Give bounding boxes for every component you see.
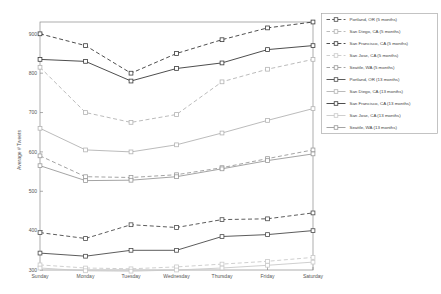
data-point-marker — [129, 79, 133, 83]
legend-swatch-marker — [334, 102, 338, 106]
data-point-marker — [84, 179, 88, 183]
legend-swatch-marker — [334, 18, 338, 22]
data-point-marker — [311, 260, 315, 264]
data-point-marker — [38, 32, 42, 36]
x-tick-label: Thursday — [212, 273, 233, 279]
legend-label: Portland, OR (5 months) — [350, 17, 398, 22]
data-point-marker — [311, 229, 315, 233]
legend: Portland, OR (5 months)San Diego, CA (5 … — [322, 14, 438, 134]
data-point-marker — [175, 268, 179, 272]
data-point-marker — [175, 226, 179, 230]
data-point-marker — [38, 65, 42, 69]
data-point-marker — [129, 248, 133, 252]
legend-label: San Diego, CA (5 months) — [350, 29, 402, 34]
data-point-marker — [38, 126, 42, 130]
y-tick-label: 300 — [29, 267, 38, 273]
data-point-marker — [311, 107, 315, 111]
data-point-marker — [266, 119, 270, 123]
data-point-marker — [38, 266, 42, 270]
data-point-marker — [84, 148, 88, 152]
legend-entry: Seattle, WA (5 months) — [327, 65, 396, 70]
data-point-marker — [220, 38, 224, 42]
legend-entry: Portland, OR (5 months) — [327, 17, 398, 22]
data-point-marker — [38, 231, 42, 235]
data-point-marker — [266, 26, 270, 30]
legend-entry: Portland, OR (13 months) — [327, 77, 401, 82]
y-tick-label: 500 — [29, 188, 38, 194]
data-point-marker — [220, 167, 224, 171]
data-point-marker — [220, 131, 224, 135]
legend-entry: Seattle, WA (13 months) — [327, 125, 398, 130]
legend-swatch-marker — [334, 30, 338, 34]
legend-label: San Diego, CA (13 months) — [350, 89, 404, 94]
chart-figure: 300400500600700800900SundayMondayTuesday… — [0, 0, 441, 294]
data-point-marker — [84, 111, 88, 115]
data-point-marker — [175, 175, 179, 179]
data-point-marker — [220, 235, 224, 239]
data-point-marker — [266, 159, 270, 163]
series-line — [40, 46, 313, 81]
data-point-marker — [266, 233, 270, 237]
y-tick-label: 800 — [29, 70, 38, 76]
data-point-marker — [311, 211, 315, 215]
data-point-marker — [311, 20, 315, 24]
data-point-marker — [220, 266, 224, 270]
data-point-marker — [38, 154, 42, 158]
data-point-marker — [175, 143, 179, 147]
legend-label: San Jose, CA (13 months) — [350, 113, 402, 118]
data-point-marker — [311, 57, 315, 61]
legend-entry: San Jose, CA (13 months) — [327, 113, 402, 118]
data-point-marker — [84, 175, 88, 179]
data-point-marker — [84, 59, 88, 63]
data-point-marker — [129, 223, 133, 227]
data-point-marker — [220, 262, 224, 266]
legend-label: Seattle, WA (13 months) — [350, 125, 398, 130]
data-point-marker — [266, 259, 270, 263]
data-point-marker — [38, 164, 42, 168]
data-point-marker — [266, 48, 270, 52]
legend-swatch-marker — [334, 114, 338, 118]
data-point-marker — [311, 152, 315, 156]
y-tick-label: 600 — [29, 149, 38, 155]
data-point-marker — [220, 80, 224, 84]
line-chart: 300400500600700800900SundayMondayTuesday… — [0, 0, 441, 294]
x-tick-label: Saturday — [303, 273, 324, 279]
y-tick-label: 700 — [29, 109, 38, 115]
data-point-marker — [175, 67, 179, 71]
data-point-marker — [175, 52, 179, 56]
legend-entry: San Jose, CA (5 months) — [327, 53, 399, 58]
data-point-marker — [175, 113, 179, 117]
data-point-marker — [311, 148, 315, 152]
data-point-marker — [38, 251, 42, 255]
data-point-marker — [84, 44, 88, 48]
legend-swatch-marker — [334, 90, 338, 94]
data-point-marker — [129, 178, 133, 182]
data-point-marker — [311, 44, 315, 48]
legend-swatch-marker — [334, 54, 338, 58]
data-point-marker — [38, 57, 42, 61]
x-tick-label: Wednesday — [163, 273, 190, 279]
legend-swatch-marker — [334, 42, 338, 46]
data-point-marker — [129, 150, 133, 154]
data-point-marker — [266, 263, 270, 267]
data-point-marker — [266, 67, 270, 71]
series-line — [40, 22, 313, 73]
data-point-marker — [84, 237, 88, 241]
series-lines — [38, 20, 315, 273]
y-tick-label: 400 — [29, 227, 38, 233]
data-point-marker — [175, 248, 179, 252]
legend-swatch-marker — [334, 126, 338, 130]
legend-label: San Jose, CA (5 months) — [350, 53, 399, 58]
legend-entry: San Diego, CA (5 months) — [327, 29, 402, 34]
x-tick-label: Friday — [261, 273, 275, 279]
y-axis-title: Average # Tweets — [16, 130, 22, 170]
legend-label: San Francisco, CA (5 months) — [350, 41, 409, 46]
legend-label: Seattle, WA (5 months) — [350, 65, 396, 70]
legend-swatch-marker — [334, 78, 338, 82]
data-point-marker — [311, 256, 315, 260]
x-tick-label: Sunday — [32, 273, 49, 279]
data-point-marker — [220, 61, 224, 65]
data-point-marker — [129, 71, 133, 75]
legend-label: Portland, OR (13 months) — [350, 77, 401, 82]
data-point-marker — [266, 217, 270, 221]
